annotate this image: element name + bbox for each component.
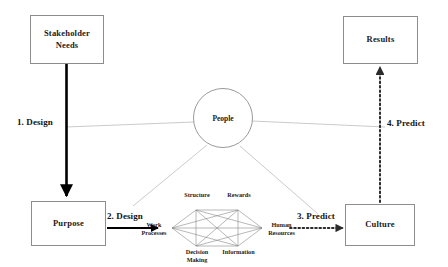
results-label: Results bbox=[367, 34, 395, 45]
diagram-canvas: Stakeholder Needs Results Purpose Cultur… bbox=[0, 0, 448, 267]
edge-label-predict-3: 3. Predict bbox=[297, 211, 335, 221]
people-to-predict3-line bbox=[240, 146, 318, 214]
star-label-decision-making: Decision Making bbox=[177, 248, 217, 264]
work-processes-text-line2: Processes bbox=[136, 229, 172, 237]
people-label: People bbox=[212, 114, 233, 123]
star-edge bbox=[172, 210, 196, 228]
decision-making-text-line1: Decision bbox=[177, 248, 217, 256]
stakeholder-needs-label-line1: Stakeholder bbox=[44, 28, 90, 39]
star-model-graph bbox=[172, 210, 262, 246]
edge-label-design-2: 2. Design bbox=[107, 211, 143, 221]
work-processes-text-line1: Work bbox=[136, 221, 172, 229]
culture-label: Culture bbox=[365, 219, 395, 230]
node-results[interactable]: Results bbox=[343, 16, 418, 64]
people-to-predict4-line bbox=[252, 121, 385, 127]
human-resources-text-line2: Resources bbox=[263, 229, 300, 237]
node-culture[interactable]: Culture bbox=[345, 204, 415, 246]
design-1-text: 1. Design bbox=[17, 117, 53, 127]
edge-label-design-1: 1. Design bbox=[17, 117, 53, 127]
purpose-label: Purpose bbox=[53, 218, 84, 229]
node-purpose[interactable]: Purpose bbox=[31, 201, 106, 246]
star-edge bbox=[238, 210, 262, 228]
rewards-text: Rewards bbox=[227, 191, 250, 198]
star-edge bbox=[238, 228, 262, 246]
predict-4-text: 4. Predict bbox=[387, 118, 425, 128]
structure-text: Structure bbox=[184, 191, 209, 198]
star-label-information: Information bbox=[216, 248, 261, 256]
predict-3-text: 3. Predict bbox=[297, 211, 335, 221]
star-label-work-processes: Work Processes bbox=[136, 221, 172, 237]
stakeholder-needs-label-line2: Needs bbox=[44, 40, 90, 51]
star-label-structure: Structure bbox=[176, 191, 218, 199]
decision-making-text-line2: Making bbox=[177, 256, 217, 264]
star-label-rewards: Rewards bbox=[219, 191, 259, 199]
information-text: Information bbox=[222, 248, 254, 255]
human-resources-text-line1: Human bbox=[263, 221, 300, 229]
people-to-design1-line bbox=[66, 122, 194, 127]
node-stakeholder-needs[interactable]: Stakeholder Needs bbox=[30, 15, 104, 64]
star-label-human-resources: Human Resources bbox=[263, 221, 300, 237]
design-2-text: 2. Design bbox=[107, 211, 143, 221]
star-edge bbox=[172, 228, 196, 246]
edge-label-predict-4: 4. Predict bbox=[387, 118, 425, 128]
node-people[interactable]: People bbox=[193, 88, 253, 148]
